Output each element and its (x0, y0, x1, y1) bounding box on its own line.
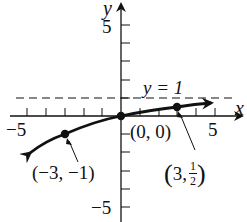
x-tick-label-right: 5 (208, 120, 218, 139)
y-tick-label-top: 5 (102, 17, 112, 36)
point-label-left: (−3, −1) (32, 163, 95, 182)
graph-canvas (0, 0, 247, 222)
point-label-origin: (0, 0) (130, 122, 171, 141)
fraction-half: 12 (189, 160, 197, 187)
paren-close: ) (197, 159, 206, 188)
paren-open: ( (164, 159, 173, 188)
leader-right-arrowhead (177, 111, 183, 118)
asymptote-label-text: y = 1 (143, 77, 183, 98)
point-right-x: 3, (173, 163, 187, 184)
x-tick-label-left: −5 (6, 120, 26, 139)
fraction-numerator: 1 (190, 160, 196, 172)
asymptote-label: y = 1 (143, 78, 183, 97)
leader-left-arrowhead (66, 138, 72, 145)
y-tick-label-bottom: −5 (91, 198, 111, 217)
point-label-right: (3,12) (164, 160, 206, 187)
leader-right (180, 114, 195, 150)
fraction-denominator: 2 (190, 175, 196, 187)
point-neg3-neg1 (61, 130, 69, 138)
point-3-half (173, 103, 181, 111)
x-axis-label: x (235, 98, 244, 118)
point-origin (117, 112, 125, 120)
